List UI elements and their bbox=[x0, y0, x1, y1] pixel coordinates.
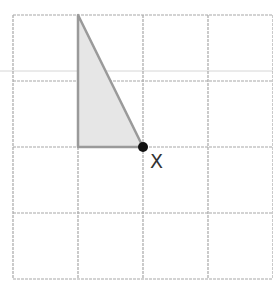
grid-diagram: X bbox=[0, 0, 273, 294]
point-x-label: X bbox=[150, 150, 163, 172]
point-x-marker bbox=[138, 142, 148, 152]
